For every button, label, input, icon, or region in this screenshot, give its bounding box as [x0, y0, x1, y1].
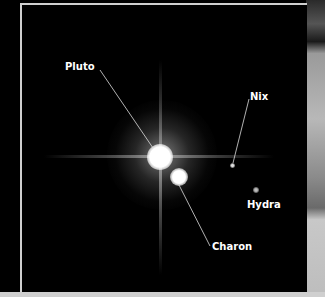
label-nix: Nix — [250, 91, 268, 102]
photo-frame: Pluto Nix Hydra Charon — [20, 3, 307, 292]
label-hydra: Hydra — [247, 199, 281, 210]
label-charon: Charon — [212, 241, 252, 252]
label-pluto: Pluto — [65, 61, 95, 72]
bottom-strip — [0, 292, 325, 297]
leader-lines — [22, 5, 307, 292]
right-photo-edge — [306, 0, 325, 297]
